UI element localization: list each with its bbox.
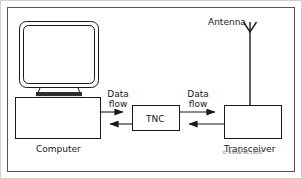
- crt-monitor-icon: [20, 22, 99, 96]
- transceiver-box: [225, 106, 282, 139]
- monitor-base-bar: [37, 93, 82, 96]
- credit-notice: © RSGB RC1620: [222, 150, 262, 155]
- data-flow-left-line1: Data: [100, 89, 136, 99]
- data-flow-left-line2: flow: [100, 99, 136, 109]
- data-flow-right-line2: flow: [180, 99, 216, 109]
- diagram-figure: Antenna Computer TNC Transceiver Data fl…: [0, 0, 302, 179]
- computer-box: [16, 98, 101, 139]
- data-flow-label-left: Data flow: [100, 89, 136, 109]
- data-flow-label-right: Data flow: [180, 89, 216, 109]
- antenna-label: Antenna: [208, 17, 246, 27]
- computer-label: Computer: [36, 144, 81, 154]
- monitor-screen: [24, 26, 95, 84]
- tnc-label: TNC: [146, 114, 165, 124]
- antenna-icon: [244, 22, 257, 106]
- data-flow-right-line1: Data: [180, 89, 216, 99]
